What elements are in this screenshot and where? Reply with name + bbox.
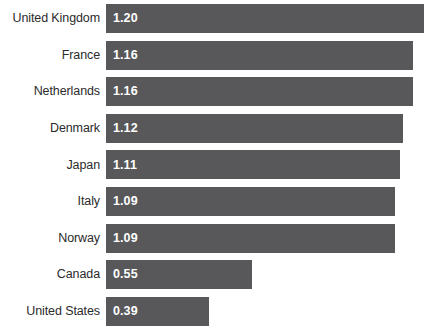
category-label: Japan bbox=[0, 159, 106, 172]
bar-track: 0.55 bbox=[106, 260, 424, 289]
bar-row: Denmark1.12 bbox=[0, 114, 424, 143]
bar-track: 1.12 bbox=[106, 114, 424, 143]
bar-value-label: 1.09 bbox=[106, 232, 138, 245]
category-label: Norway bbox=[0, 232, 106, 245]
bar-row: France1.16 bbox=[0, 41, 424, 70]
bar-track: 1.16 bbox=[106, 41, 424, 70]
bar-value-label: 1.16 bbox=[106, 49, 138, 62]
bar-row: Japan1.11 bbox=[0, 150, 424, 179]
bar-track: 1.16 bbox=[106, 77, 424, 106]
category-label: Italy bbox=[0, 195, 106, 208]
bar-value-label: 1.16 bbox=[106, 85, 138, 98]
bar-row: United States0.39 bbox=[0, 297, 424, 326]
bar-value-label: 0.39 bbox=[106, 305, 138, 318]
bar: 1.16 bbox=[106, 41, 413, 70]
bar: 1.09 bbox=[106, 187, 395, 216]
bar-value-label: 1.09 bbox=[106, 195, 138, 208]
bar-row: Italy1.09 bbox=[0, 187, 424, 216]
bar-track: 0.39 bbox=[106, 297, 424, 326]
bar: 0.39 bbox=[106, 297, 209, 326]
bar: 0.55 bbox=[106, 260, 252, 289]
bar-value-label: 1.20 bbox=[106, 12, 138, 25]
bar-value-label: 1.12 bbox=[106, 122, 138, 135]
bar-track: 1.09 bbox=[106, 187, 424, 216]
bar-row: Norway1.09 bbox=[0, 224, 424, 253]
category-label: United Kingdom bbox=[0, 12, 106, 25]
bar-value-label: 0.55 bbox=[106, 268, 138, 281]
bar-track: 1.11 bbox=[106, 150, 424, 179]
bar-track: 1.09 bbox=[106, 224, 424, 253]
bar: 1.11 bbox=[106, 150, 400, 179]
bar-row: United Kingdom1.20 bbox=[0, 4, 424, 33]
bar-track: 1.20 bbox=[106, 4, 424, 33]
category-label: France bbox=[0, 49, 106, 62]
category-label: Canada bbox=[0, 268, 106, 281]
bar-row: Canada0.55 bbox=[0, 260, 424, 289]
bar: 1.09 bbox=[106, 224, 395, 253]
category-label: Denmark bbox=[0, 122, 106, 135]
category-label: United States bbox=[0, 305, 106, 318]
bar-value-label: 1.11 bbox=[106, 159, 137, 172]
horizontal-bar-chart: United Kingdom1.20France1.16Netherlands1… bbox=[0, 0, 424, 330]
bar: 1.20 bbox=[106, 4, 424, 33]
bar: 1.16 bbox=[106, 77, 413, 106]
bar-row: Netherlands1.16 bbox=[0, 77, 424, 106]
category-label: Netherlands bbox=[0, 85, 106, 98]
bar: 1.12 bbox=[106, 114, 403, 143]
